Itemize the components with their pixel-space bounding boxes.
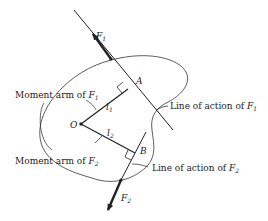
label-l1: l1: [106, 102, 113, 113]
right-angle-marker-a: [117, 82, 123, 93]
force-vector-f2: [108, 180, 121, 210]
point-of-application-f1: [109, 57, 112, 60]
leader-moment-arm-f2: [95, 136, 102, 143]
pivot-point-o: [80, 123, 83, 126]
leader-line-of-action-f1: [156, 106, 168, 110]
leader-bracket-left: [40, 103, 52, 150]
callout-line-of-action-f2: Line of action of F2: [152, 163, 239, 174]
line-of-action-f2: [121, 132, 146, 180]
label-l2: l2: [107, 128, 114, 139]
leader-line-of-action-f2: [132, 164, 148, 167]
leader-moment-arm-f1: [86, 100, 96, 110]
callout-line-of-action-f1: Line of action of F1: [170, 101, 257, 112]
moment-arm-diagram: F1 F2 A B O l1 l2 Moment arm of F1 Momen…: [0, 0, 268, 221]
label-point-o: O: [70, 120, 78, 130]
label-f2: F2: [120, 193, 131, 204]
label-f1: F1: [95, 31, 106, 42]
callout-moment-arm-f1: Moment arm of F1: [15, 90, 99, 101]
right-angle-marker-b: [125, 150, 131, 160]
callout-moment-arm-f2: Moment arm of F2: [15, 156, 99, 167]
label-point-b: B: [139, 146, 147, 156]
point-of-application-f2: [119, 178, 122, 181]
label-point-a: A: [135, 76, 143, 86]
line-of-action-f1: [74, 10, 173, 130]
